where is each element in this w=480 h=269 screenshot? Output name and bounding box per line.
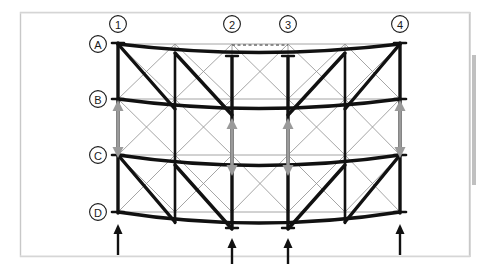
grid-label-column-2[interactable]: 2 [224, 16, 241, 33]
grid-label-row-c[interactable]: C [90, 147, 107, 164]
grid-label-row-a[interactable]: A [90, 36, 107, 53]
grid-label-row-d[interactable]: D [90, 204, 107, 221]
grid-label-row-b[interactable]: B [90, 91, 107, 108]
truss-deformation-diagram: 1 2 3 4 A B [0, 0, 480, 269]
grid-label-text: 1 [115, 19, 121, 31]
grid-label-text: B [94, 94, 101, 106]
grid-label-text: A [94, 39, 102, 51]
figure-container: 1 2 3 4 A B [0, 0, 480, 269]
grid-label-text: C [94, 150, 102, 162]
grid-label-column-1[interactable]: 1 [110, 16, 127, 33]
page-edge-shadow [472, 55, 476, 185]
grid-label-text: 3 [285, 19, 291, 31]
figure-border [21, 13, 470, 257]
grid-label-text: 4 [397, 19, 403, 31]
grid-label-column-3[interactable]: 3 [280, 16, 297, 33]
grid-label-text: 2 [229, 19, 235, 31]
grid-label-text: D [94, 207, 102, 219]
grid-label-column-4[interactable]: 4 [392, 16, 409, 33]
